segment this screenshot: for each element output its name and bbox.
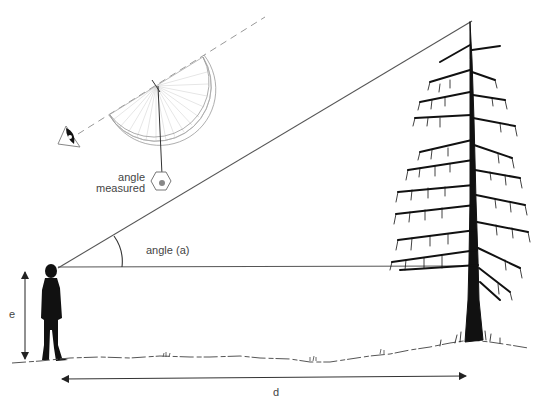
eye-icon — [58, 126, 80, 147]
plumb-bob-icon — [151, 172, 171, 190]
clinometer-sight-line — [78, 17, 265, 134]
label-eye-height: e — [9, 308, 15, 320]
label-angle-measured-2: measured — [90, 182, 145, 194]
angle-arc — [114, 236, 122, 267]
diagram-canvas: angle measured angle (a) e d — [0, 0, 544, 409]
diagram-svg — [0, 0, 544, 409]
horizontal-line — [58, 266, 460, 267]
plumb-line — [158, 86, 162, 175]
label-distance: d — [273, 386, 279, 398]
label-angle-a: angle (a) — [146, 244, 189, 256]
distance-arrow — [62, 376, 466, 379]
tree-illustration — [390, 22, 530, 346]
protractor-arc — [110, 55, 216, 145]
sight-line — [58, 21, 472, 268]
observer-silhouette — [41, 264, 68, 361]
ground-line — [12, 340, 528, 363]
label-angle-measured-line2: measured — [90, 182, 145, 194]
